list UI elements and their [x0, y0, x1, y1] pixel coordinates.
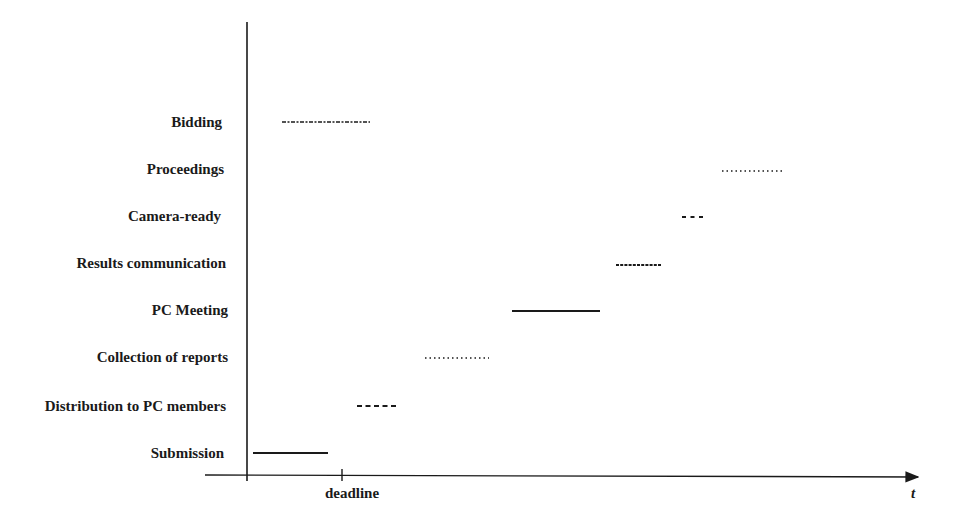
task-label-results-communication: Results communication — [76, 255, 226, 271]
task-label-pc-meeting: PC Meeting — [152, 302, 229, 318]
task-label-collection-of-reports: Collection of reports — [97, 349, 229, 365]
timeline-diagram: deadline t Bidding Proceedings Camera-re… — [0, 0, 965, 531]
task-label-proceedings: Proceedings — [147, 161, 224, 177]
task-label-camera-ready: Camera-ready — [128, 208, 222, 224]
task-label-bidding: Bidding — [171, 114, 222, 130]
x-axis — [205, 475, 918, 477]
deadline-label: deadline — [325, 485, 380, 501]
task-label-distribution: Distribution to PC members — [45, 398, 226, 414]
time-axis-label: t — [911, 485, 916, 501]
task-label-submission: Submission — [151, 445, 225, 461]
